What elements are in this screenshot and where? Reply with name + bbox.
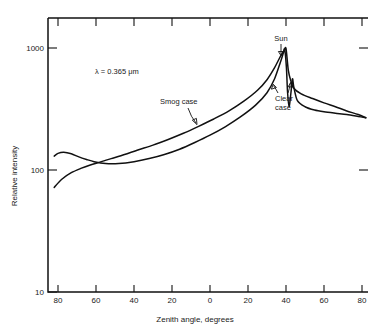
x-axis-ticks-bottom (58, 285, 362, 292)
x-tick-label-4: 0 (208, 296, 213, 305)
x-tick-label-6: 40 (282, 296, 291, 305)
x-axis-title: Zenith angle, degrees (156, 315, 233, 324)
annotation-wavelength: λ = 0.365 μm (95, 67, 139, 76)
x-tick-label-3: 20 (168, 296, 177, 305)
sun-label: Sun (274, 34, 287, 43)
axes-frame (48, 18, 368, 292)
y-tick-label-1000: 1000 (26, 44, 44, 53)
y-tick-label-10: 10 (35, 288, 44, 297)
x-tick-label-2: 40 (130, 296, 139, 305)
y-axis-ticks (48, 48, 368, 292)
wavelength-label: λ = 0.365 μm (95, 67, 139, 76)
chart-figure: 1000 100 10 80 60 40 20 0 20 40 60 80 Ze… (0, 0, 381, 332)
y-axis-tick-labels: 1000 100 10 (26, 44, 44, 297)
clear-case-label-line2: case (275, 103, 291, 112)
smog-case-label: Smog case (160, 97, 198, 106)
x-tick-label-1: 60 (92, 296, 101, 305)
x-tick-label-5: 20 (244, 296, 253, 305)
x-tick-label-7: 60 (320, 296, 329, 305)
x-tick-label-0: 80 (54, 296, 63, 305)
series-smog-case (54, 49, 366, 164)
annotation-smog: Smog case (160, 97, 198, 125)
x-axis-tick-labels: 80 60 40 20 0 20 40 60 80 (54, 296, 367, 305)
y-axis-title: Relative intensity (10, 146, 19, 206)
annotation-clear: Clear case (271, 82, 293, 112)
clear-case-label-line1: Clear (275, 94, 293, 103)
y-tick-label-100: 100 (31, 166, 45, 175)
x-tick-label-8: 80 (358, 296, 367, 305)
x-axis-ticks-top (58, 18, 362, 26)
